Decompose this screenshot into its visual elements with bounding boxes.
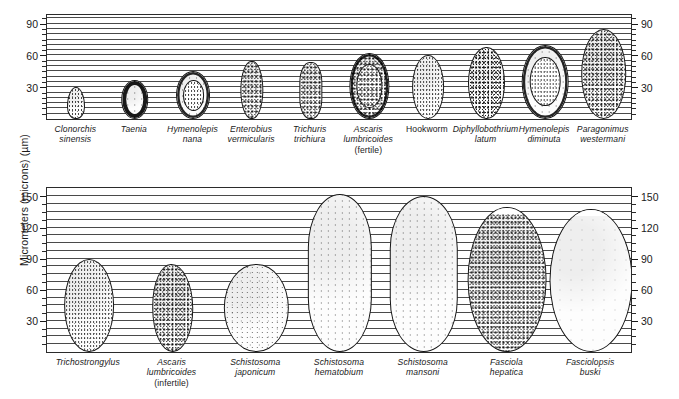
egg-illustration — [412, 55, 444, 119]
tick-mark — [42, 108, 46, 109]
tick-label: 120 — [641, 223, 667, 234]
specimen-label-line: Fasciola — [463, 357, 549, 367]
tick-label: 90 — [641, 19, 667, 30]
tick-mark — [42, 61, 46, 62]
tick-label: 30 — [12, 83, 38, 94]
operculum — [574, 209, 609, 216]
tick-label: 90 — [641, 254, 667, 265]
tick-mark — [632, 329, 636, 330]
tick-mark — [632, 204, 636, 205]
tick-mark — [632, 282, 636, 283]
tick-mark — [632, 29, 636, 30]
tick-mark — [632, 305, 636, 306]
bottom-right-tickmarks — [632, 187, 638, 353]
specimen-label: Fasciolahepatica — [463, 357, 549, 378]
tick-mark-major — [40, 290, 46, 291]
tick-mark-major — [40, 196, 46, 197]
tick-mark-major — [632, 55, 638, 56]
egg-illustration — [468, 47, 504, 119]
tick-label: 90 — [12, 19, 38, 30]
egg-shell-ring — [122, 81, 148, 118]
tick-mark — [632, 66, 636, 67]
specimen-label-line: hepatica — [463, 367, 549, 377]
specimen-label-line: Ascaris — [129, 357, 215, 367]
tick-mark — [632, 34, 636, 35]
egg-illustration — [581, 29, 627, 119]
tick-mark — [632, 50, 636, 51]
tick-label: 60 — [641, 51, 667, 62]
tick-mark-major — [632, 196, 638, 197]
tick-mark — [632, 251, 636, 252]
specimen-label: Schistosomamansoni — [380, 357, 466, 378]
tick-mark — [632, 243, 636, 244]
specimen-label-line: Schistosoma — [380, 357, 466, 367]
specimen — [47, 259, 131, 352]
egg-inner-membrane — [183, 80, 205, 111]
egg-texture — [153, 265, 193, 351]
specimen-label-line: lumbricoides — [331, 134, 405, 144]
egg-illustration — [224, 264, 288, 352]
tick-mark — [42, 40, 46, 41]
tick-mark — [42, 66, 46, 67]
tick-mark — [42, 45, 46, 46]
tick-mark — [632, 61, 636, 62]
tick-mark — [42, 282, 46, 283]
egg-illustration — [468, 207, 547, 352]
egg-illustration — [121, 80, 149, 119]
tick-mark — [42, 251, 46, 252]
tick-label: 150 — [12, 192, 38, 203]
specimen — [106, 80, 165, 119]
specimen-label-line: Paragonimus — [566, 124, 640, 134]
tick-mark — [632, 77, 636, 78]
tick-mark — [42, 274, 46, 275]
specimen-label: Paragonimuswestermani — [566, 124, 640, 145]
tick-mark — [42, 77, 46, 78]
egg-illustration — [299, 62, 322, 119]
bottom-left-tick-labels: 306090120150 — [12, 187, 38, 353]
tick-mark — [632, 212, 636, 213]
specimen-label-line: japonicum — [212, 367, 298, 377]
egg-texture — [413, 56, 443, 118]
egg-texture — [65, 260, 113, 351]
tick-mark — [42, 114, 46, 115]
tick-mark — [42, 34, 46, 35]
tick-mark-major — [40, 259, 46, 260]
specimen — [131, 264, 215, 352]
specimen — [516, 45, 575, 119]
tick-mark-major — [632, 87, 638, 88]
tick-mark — [42, 18, 46, 19]
tick-mark — [42, 212, 46, 213]
tick-mark — [632, 40, 636, 41]
tick-mark — [42, 329, 46, 330]
bottom-left-tickmarks — [40, 187, 46, 353]
tick-mark — [632, 313, 636, 314]
tick-mark — [42, 82, 46, 83]
tick-mark — [42, 313, 46, 314]
egg-inner-membrane — [357, 64, 382, 107]
specimen — [457, 47, 516, 119]
specimen-label-line: westermani — [566, 134, 640, 144]
specimen-label-line: Fasciolopsis — [547, 357, 633, 367]
tick-mark-major — [40, 55, 46, 56]
tick-mark — [42, 93, 46, 94]
tick-mark — [632, 103, 636, 104]
bottom-plot-area — [46, 187, 632, 353]
egg-illustration — [67, 87, 85, 119]
specimen-label-line: hematobium — [296, 367, 382, 377]
operculum — [491, 207, 524, 214]
tick-label: 90 — [12, 254, 38, 265]
tick-mark — [632, 235, 636, 236]
specimen — [382, 196, 466, 352]
tick-label: 30 — [12, 316, 38, 327]
tick-mark — [632, 274, 636, 275]
egg-inner-texture — [358, 65, 381, 106]
tick-mark-major — [632, 321, 638, 322]
tick-mark — [632, 71, 636, 72]
specimen-label-line: buski — [547, 367, 633, 377]
egg-texture — [309, 195, 371, 351]
tick-mark — [42, 204, 46, 205]
specimen — [223, 61, 282, 119]
top-left-tick-labels: 306090 — [12, 14, 38, 120]
tick-mark — [42, 71, 46, 72]
tick-label: 120 — [12, 223, 38, 234]
